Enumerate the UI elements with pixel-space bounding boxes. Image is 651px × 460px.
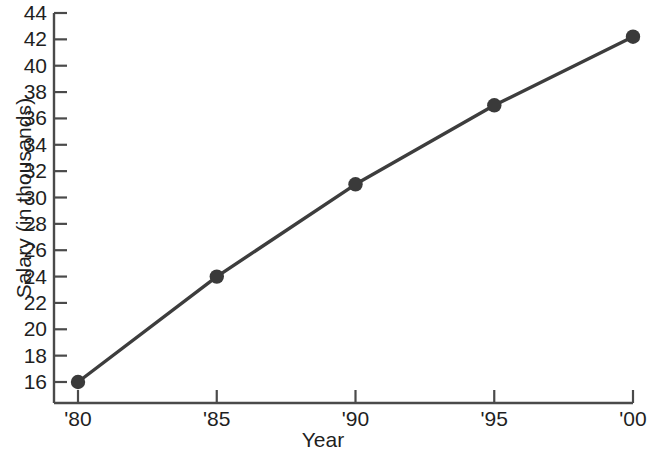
data-point-marker [210,269,224,283]
data-point-markers [71,30,640,390]
data-point-marker [348,177,362,191]
x-axis-tick-label: '90 [321,408,391,430]
data-point-marker [71,375,85,389]
x-axis-tick-label: '00 [598,408,651,430]
y-axis-ticks [54,13,67,382]
x-axis-tick-label: '95 [459,408,529,430]
data-line-series-salary [78,37,633,382]
data-point-marker [626,30,640,44]
axis-lines [54,13,633,403]
x-axis-tick-label: '85 [182,408,252,430]
x-axis-ticks [78,390,633,403]
x-axis-tick-label: '80 [43,408,113,430]
x-axis-title: Year [0,428,646,452]
data-point-marker [487,98,501,112]
